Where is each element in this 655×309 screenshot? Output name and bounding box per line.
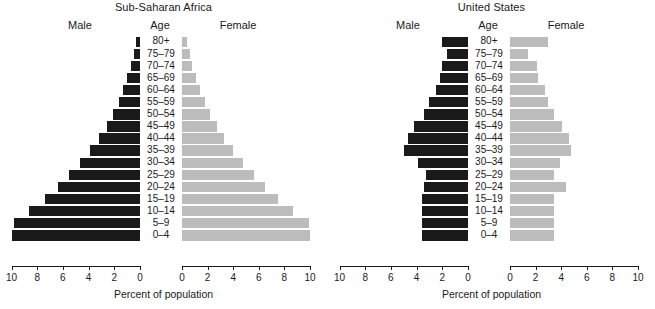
axis-line <box>182 266 310 267</box>
axis-tick <box>208 266 209 270</box>
axis-tick <box>233 266 234 270</box>
pyramid-row: 55–59 <box>328 97 655 109</box>
axis-tick-label: 4 <box>79 272 99 284</box>
pyramid-row: 50–54 <box>0 109 327 121</box>
age-group-label: 25–29 <box>468 169 510 181</box>
axis-tick <box>587 266 588 270</box>
column-header-female: Female <box>208 19 268 32</box>
bar-male <box>422 230 468 240</box>
age-group-label: 50–54 <box>140 108 182 120</box>
column-header-male: Male <box>378 19 438 32</box>
plot-area: 80+75–7970–7465–6960–6455–5950–5445–4940… <box>328 36 655 266</box>
axis-tick <box>561 266 562 270</box>
axis-tick <box>468 266 469 270</box>
axis-tick-label: 0 <box>130 272 150 284</box>
age-group-label: 55–59 <box>140 96 182 108</box>
bar-male <box>127 73 140 83</box>
panel-title: Sub-Saharan Africa <box>0 1 327 14</box>
axis-tick-label: 10 <box>330 272 350 284</box>
axis-tick-label: 8 <box>274 272 294 284</box>
bar-female <box>182 158 243 168</box>
bar-female <box>510 218 554 228</box>
column-header-male: Male <box>50 19 110 32</box>
bar-female <box>182 194 278 204</box>
bar-female <box>510 37 548 47</box>
axis-tick-label: 2 <box>432 272 452 284</box>
axis-tick-label: 4 <box>551 272 571 284</box>
bar-female <box>510 194 554 204</box>
pyramid-row: 70–74 <box>328 60 655 72</box>
age-group-label: 60–64 <box>468 84 510 96</box>
bar-male <box>69 170 140 180</box>
pyramid-row: 40–44 <box>328 133 655 145</box>
age-group-label: 80+ <box>468 35 510 47</box>
pyramid-row: 25–29 <box>0 169 327 181</box>
axis-tick-label: 6 <box>381 272 401 284</box>
bar-male <box>113 109 140 119</box>
panel-title: United States <box>328 1 655 14</box>
bar-female <box>182 37 187 47</box>
bar-male <box>12 230 141 240</box>
pyramid-row: 10–14 <box>328 205 655 217</box>
axis-tick-label: 10 <box>2 272 22 284</box>
panel-united-states: United States Male Age Female 80+75–7970… <box>328 0 655 309</box>
age-group-label: 0–4 <box>468 229 510 241</box>
age-group-label: 35–39 <box>468 144 510 156</box>
axis-tick <box>365 266 366 270</box>
axis-tick <box>612 266 613 270</box>
pyramid-row: 20–24 <box>328 181 655 193</box>
bar-female <box>510 206 554 216</box>
axis-tick-label: 2 <box>526 272 546 284</box>
bar-female <box>510 109 554 119</box>
age-group-label: 65–69 <box>140 72 182 84</box>
axis-tick-label: 0 <box>458 272 478 284</box>
axis-line <box>12 266 141 267</box>
bar-male <box>424 182 468 192</box>
pyramid-row: 80+ <box>328 36 655 48</box>
x-axis-label: Percent of population <box>0 288 327 300</box>
axis-tick <box>536 266 537 270</box>
bar-male <box>429 97 468 107</box>
axis-tick <box>417 266 418 270</box>
age-group-label: 75–79 <box>140 48 182 60</box>
bar-female <box>182 73 196 83</box>
bar-male <box>442 61 468 71</box>
pyramid-row: 5–9 <box>0 218 327 230</box>
axis-line <box>340 266 469 267</box>
axis-tick-label: 6 <box>577 272 597 284</box>
pyramid-row: 0–4 <box>0 230 327 242</box>
age-group-label: 65–69 <box>468 72 510 84</box>
age-group-label: 10–14 <box>468 205 510 217</box>
bar-female <box>510 73 538 83</box>
axis-tick-label: 0 <box>500 272 520 284</box>
bar-male <box>424 109 468 119</box>
age-group-label: 55–59 <box>468 96 510 108</box>
bar-male <box>45 194 140 204</box>
bar-female <box>510 170 554 180</box>
axis-tick-label: 8 <box>602 272 622 284</box>
axis-tick <box>63 266 64 270</box>
axis-tick <box>310 266 311 270</box>
axis-tick-label: 4 <box>407 272 427 284</box>
bar-female <box>182 218 309 228</box>
pyramid-row: 30–34 <box>328 157 655 169</box>
column-header-age: Age <box>458 19 518 32</box>
bar-female <box>510 49 528 59</box>
x-axis-label: Percent of population <box>328 288 655 300</box>
pyramid-row: 40–44 <box>0 133 327 145</box>
bar-male <box>426 170 468 180</box>
bar-male <box>99 133 140 143</box>
bar-male <box>404 145 468 155</box>
bar-female <box>510 145 571 155</box>
bar-male <box>447 49 468 59</box>
age-group-label: 75–79 <box>468 48 510 60</box>
x-axis-male: 1086420 <box>0 266 150 288</box>
bar-female <box>182 85 200 95</box>
pyramid-row: 65–69 <box>0 72 327 84</box>
age-group-label: 80+ <box>140 35 182 47</box>
pyramid-row: 80+ <box>0 36 327 48</box>
bar-female <box>182 49 190 59</box>
age-group-label: 30–34 <box>140 156 182 168</box>
axis-line <box>510 266 638 267</box>
pyramid-row: 30–34 <box>0 157 327 169</box>
